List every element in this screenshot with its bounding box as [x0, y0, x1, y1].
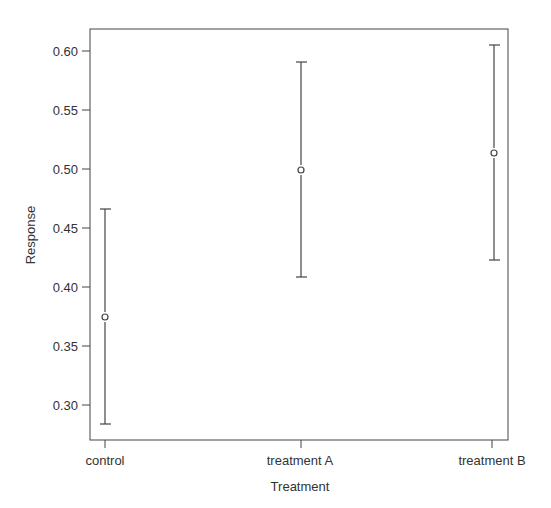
y-tick-labels: 0.30 0.35 0.40 0.45 0.50 0.55 0.60 [53, 44, 78, 413]
y-tick-label: 0.60 [53, 44, 78, 59]
errorbar-control [100, 209, 111, 424]
x-tick-label: treatment B [458, 453, 525, 468]
x-tick-label: treatment A [267, 453, 334, 468]
plot-frame [90, 29, 508, 440]
x-tick-labels: control treatment A treatment B [85, 453, 525, 468]
y-axis [82, 51, 90, 405]
mean-point [298, 167, 304, 173]
x-tick-label: control [85, 453, 124, 468]
mean-point [491, 150, 497, 156]
y-tick-label: 0.55 [53, 103, 78, 118]
y-tick-label: 0.45 [53, 221, 78, 236]
y-tick-label: 0.30 [53, 398, 78, 413]
x-axis [105, 440, 492, 448]
x-axis-title: Treatment [271, 479, 330, 494]
mean-point [102, 314, 108, 320]
errorbar-treatment-b [489, 45, 500, 260]
y-tick-label: 0.40 [53, 280, 78, 295]
y-tick-label: 0.50 [53, 162, 78, 177]
errorbar-treatment-a [296, 62, 307, 277]
y-tick-label: 0.35 [53, 339, 78, 354]
y-axis-title: Response [23, 206, 38, 265]
errorbar-chart: 0.30 0.35 0.40 0.45 0.50 0.55 0.60 contr… [0, 0, 551, 508]
